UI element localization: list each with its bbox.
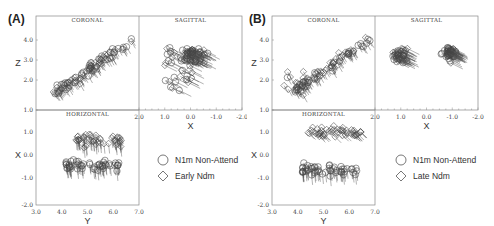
svg-text:4.0: 4.0 — [57, 208, 67, 215]
legend-item-circle: N1m Non-Attend — [395, 152, 476, 168]
legend-label: Late Ndm — [413, 171, 450, 181]
figure-b: (B) CORONALSAGITTALHORIZONTAL4.03.02.01.… — [247, 0, 494, 226]
legend-label: N1m Non-Attend — [175, 155, 238, 165]
svg-text:7.0: 7.0 — [134, 208, 144, 215]
svg-text:CORONAL: CORONAL — [308, 17, 340, 23]
svg-text:3.0: 3.0 — [259, 56, 269, 63]
svg-text:5.0: 5.0 — [83, 208, 93, 215]
svg-text:0.0: 0.0 — [186, 113, 196, 120]
svg-text:3.0: 3.0 — [31, 208, 41, 215]
svg-text:-2.0: -2.0 — [21, 201, 33, 208]
svg-text:0.0: 0.0 — [259, 151, 269, 158]
plot-frames: CORONALSAGITTALHORIZONTAL4.03.02.01.0Z2.… — [15, 16, 247, 226]
legend-item-diamond: Early Ndm — [157, 168, 238, 184]
svg-text:2.0: 2.0 — [23, 76, 33, 83]
svg-text:6.0: 6.0 — [108, 208, 118, 215]
figure-b-legend: N1m Non-Attend Late Ndm — [395, 152, 476, 184]
svg-text:X: X — [15, 150, 21, 160]
svg-text:-1.0: -1.0 — [446, 113, 458, 120]
svg-text:-2.0: -2.0 — [236, 113, 247, 120]
svg-text:-2.0: -2.0 — [472, 113, 484, 120]
svg-text:SAGITTAL: SAGITTAL — [175, 17, 207, 23]
legend-item-diamond: Late Ndm — [395, 168, 476, 184]
figure-a-legend: N1m Non-Attend Early Ndm — [157, 152, 238, 184]
svg-text:X: X — [251, 150, 257, 160]
svg-text:3.0: 3.0 — [23, 56, 33, 63]
legend-item-circle: N1m Non-Attend — [157, 152, 238, 168]
svg-text:HORIZONTAL: HORIZONTAL — [302, 111, 345, 117]
svg-text:HORIZONTAL: HORIZONTAL — [66, 111, 109, 117]
svg-text:7.0: 7.0 — [370, 208, 380, 215]
svg-text:0.0: 0.0 — [422, 113, 432, 120]
svg-text:0.0: 0.0 — [23, 151, 33, 158]
svg-text:CORONAL: CORONAL — [72, 17, 104, 23]
svg-text:4.0: 4.0 — [259, 36, 269, 43]
circle-marker-icon — [157, 154, 169, 166]
svg-text:1.0: 1.0 — [160, 113, 170, 120]
svg-text:2.0: 2.0 — [370, 113, 380, 120]
svg-text:Y: Y — [320, 216, 326, 226]
svg-text:X: X — [187, 121, 193, 131]
svg-text:Z: Z — [251, 58, 257, 68]
svg-text:6.0: 6.0 — [344, 208, 354, 215]
svg-text:Z: Z — [15, 58, 21, 68]
figure-a: (A) CORONALSAGITTALHORIZONTAL4.03.02.01.… — [0, 0, 247, 226]
legend-label: N1m Non-Attend — [413, 155, 476, 165]
svg-text:3.0: 3.0 — [267, 208, 277, 215]
svg-text:-1.0: -1.0 — [21, 174, 33, 181]
diamond-marker-icon — [157, 170, 169, 182]
svg-text:1.0: 1.0 — [23, 128, 33, 135]
figure-a-plots: CORONALSAGITTALHORIZONTAL4.03.02.01.0Z2.… — [0, 0, 247, 226]
circle-marker-icon — [395, 154, 407, 166]
svg-text:1.0: 1.0 — [259, 106, 269, 113]
svg-text:1.0: 1.0 — [259, 128, 269, 135]
svg-text:2.0: 2.0 — [134, 113, 144, 120]
svg-text:-1.0: -1.0 — [210, 113, 222, 120]
svg-text:1.0: 1.0 — [396, 113, 406, 120]
svg-text:5.0: 5.0 — [319, 208, 329, 215]
diamond-marker-icon — [395, 170, 407, 182]
svg-text:-1.0: -1.0 — [257, 174, 269, 181]
svg-text:SAGITTAL: SAGITTAL — [411, 17, 443, 23]
svg-text:4.0: 4.0 — [23, 36, 33, 43]
svg-text:X: X — [423, 121, 429, 131]
svg-text:-2.0: -2.0 — [257, 201, 269, 208]
svg-text:1.0: 1.0 — [23, 106, 33, 113]
figure-b-plots: CORONALSAGITTALHORIZONTAL4.03.02.01.0Z2.… — [247, 0, 494, 226]
svg-text:Y: Y — [84, 216, 90, 226]
svg-text:2.0: 2.0 — [259, 76, 269, 83]
legend-label: Early Ndm — [175, 171, 215, 181]
svg-text:4.0: 4.0 — [293, 208, 303, 215]
